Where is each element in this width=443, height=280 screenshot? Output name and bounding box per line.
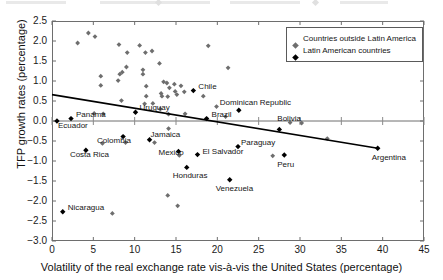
data-point xyxy=(195,152,200,157)
point-label: Nicaragua xyxy=(68,204,104,212)
point-label: Mexico xyxy=(158,149,183,157)
data-point xyxy=(172,82,177,87)
data-point xyxy=(201,94,206,99)
x-axis-tick-label: 40 xyxy=(368,245,398,255)
data-point xyxy=(270,153,275,158)
data-point xyxy=(184,165,189,170)
data-point xyxy=(143,50,148,55)
data-point xyxy=(167,85,172,90)
grey-diamond-icon xyxy=(292,35,299,42)
data-point xyxy=(116,78,121,83)
data-point xyxy=(175,203,180,208)
data-point xyxy=(150,49,155,54)
x-axis-tick-label: 25 xyxy=(244,245,274,255)
data-point xyxy=(137,43,142,48)
x-axis-title: Volatility of the real exchange rate vis… xyxy=(0,261,443,273)
data-point xyxy=(144,84,149,89)
data-point xyxy=(110,211,115,216)
y-axis-title: TFP growth rates (percentage) xyxy=(15,0,27,194)
data-point xyxy=(144,94,149,99)
data-point xyxy=(117,42,122,47)
x-axis-tick-label: 5 xyxy=(78,245,108,255)
data-point xyxy=(125,50,130,55)
point-label: Colombia xyxy=(97,137,131,145)
data-point xyxy=(214,104,219,109)
data-point xyxy=(60,209,65,214)
x-axis-tick-label: 10 xyxy=(120,245,150,255)
data-point xyxy=(93,34,98,39)
x-axis-tick-label: 20 xyxy=(202,245,232,255)
point-label: Uruguay xyxy=(139,104,169,112)
point-label: Costa Rica xyxy=(70,151,109,159)
point-label: Dominican Republic xyxy=(220,99,291,107)
data-point xyxy=(133,110,138,115)
data-point xyxy=(124,65,129,70)
data-point xyxy=(157,61,162,66)
x-axis-tick-label: 0 xyxy=(37,245,67,255)
point-label: Chile xyxy=(198,83,216,91)
chart-figure: 2.52.01.51.00.50.0−0.5−1.0−1.5−2.0−2.5−3… xyxy=(0,0,443,280)
point-label: Brazil xyxy=(212,111,232,119)
data-point xyxy=(98,74,103,79)
point-label: Panama xyxy=(76,111,106,119)
point-label: Honduras xyxy=(173,172,208,180)
x-axis-tick-label: 15 xyxy=(161,245,191,255)
point-label: El Salvador xyxy=(202,148,243,156)
data-point xyxy=(165,94,170,99)
data-point xyxy=(98,83,103,88)
data-point xyxy=(119,98,124,103)
point-label: Jamaica xyxy=(151,131,181,139)
point-label: Venezuela xyxy=(216,185,253,193)
data-point xyxy=(236,108,241,113)
point-label: Ecuador xyxy=(58,122,88,130)
data-point xyxy=(86,31,91,36)
data-point xyxy=(165,193,170,198)
data-point xyxy=(182,89,187,94)
scan-bleed-artifact xyxy=(0,0,443,7)
legend-item-outside-latin-america: Countries outside Latin America xyxy=(292,33,416,44)
data-point xyxy=(282,152,287,157)
point-label: Peru xyxy=(277,161,294,169)
legend-label-outside-latin-america: Countries outside Latin America xyxy=(303,35,416,43)
data-point xyxy=(152,140,157,145)
x-axis-tick-label: 45 xyxy=(409,245,439,255)
data-point xyxy=(206,43,211,48)
data-point xyxy=(141,67,146,72)
data-point xyxy=(226,65,231,70)
data-point xyxy=(141,72,146,77)
chart-legend: Countries outside Latin America Latin Am… xyxy=(286,27,423,62)
data-point xyxy=(227,177,232,182)
legend-item-latin-american: Latin American countries xyxy=(292,45,416,56)
point-label: Bolivia xyxy=(277,115,301,123)
x-axis-tick-label: 30 xyxy=(285,245,315,255)
point-label: Argentina xyxy=(372,154,406,162)
y-axis-tick-label: −2.5 xyxy=(3,216,47,226)
legend-label-latin-american: Latin American countries xyxy=(303,47,391,55)
black-diamond-icon xyxy=(292,47,299,54)
data-point xyxy=(75,41,80,46)
point-label: Paraguay xyxy=(241,139,275,147)
y-axis-tick-label: −2.0 xyxy=(3,196,47,206)
data-point xyxy=(191,88,196,93)
data-point xyxy=(179,83,184,88)
x-axis-tick-label: 35 xyxy=(326,245,356,255)
